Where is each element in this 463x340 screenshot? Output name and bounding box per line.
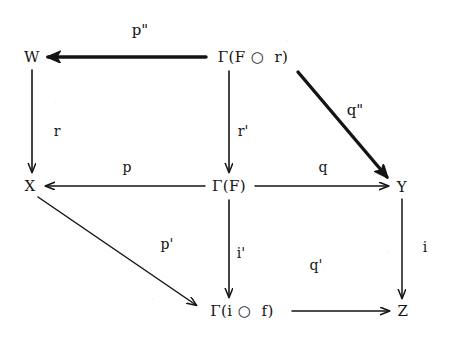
node-X: X [24,179,35,194]
node-Y: Y [397,180,407,195]
node-W: W [24,50,40,65]
edge-label-i-prime: i' [237,246,245,260]
edge-label-i: i [423,240,427,254]
node-gamma-F-circ-r: Γ(F ○ r) [218,50,289,65]
edge-label-q-prime: q' [310,258,323,272]
edge-label-p: p [123,160,132,174]
edge-label-r-prime: r' [238,124,249,138]
diagram-canvas: W Γ(F ○ r) X Γ(F) Y Γ(i ○ f) Z p" r r' q… [0,0,463,340]
node-gamma-i-circ-f: Γ(i ○ f) [210,304,273,319]
node-gamma-F: Γ(F) [212,179,246,194]
edge-label-p-double-prime: p" [132,23,149,38]
edge-label-q-double-prime: q" [347,103,364,118]
edge-label-q: q [319,160,328,174]
edge-label-p-prime: p' [161,237,174,251]
edge-label-r: r [54,124,61,138]
edge-q-double-prime [298,72,387,177]
node-Z: Z [398,304,409,319]
